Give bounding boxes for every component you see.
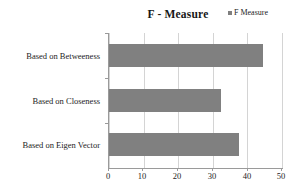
chart-title: F - Measure <box>128 8 228 20</box>
category-label-eigen-vector: Based on Eigen Vector <box>22 141 100 150</box>
bar-based-on-closeness <box>109 89 221 112</box>
bar-based-on-betweeness <box>109 44 263 67</box>
legend-entry-label: F Measure <box>234 9 268 17</box>
category-label-betweeness: Based on Betweeness <box>26 52 100 61</box>
x-ticklabel-10: 10 <box>138 172 147 181</box>
category-label-closeness: Based on Closeness <box>32 97 100 106</box>
x-ticklabel-50: 50 <box>277 172 286 181</box>
x-axis-tick-labels: 0 10 20 30 40 50 <box>0 172 301 188</box>
y-tickmark-2 <box>105 123 108 124</box>
x-axis-line <box>108 168 283 169</box>
y-axis-category-labels: Based on Betweeness Based on Closeness B… <box>0 33 104 168</box>
bar-based-on-eigen-vector <box>109 133 239 156</box>
chart-legend: F Measure <box>228 9 268 17</box>
x-ticklabel-0: 0 <box>106 172 110 181</box>
f-measure-bar-chart: F - Measure F Measure Based on Betweenes… <box>0 0 301 194</box>
plot-area <box>108 33 282 168</box>
x-ticklabel-40: 40 <box>243 172 252 181</box>
y-tickmark-1 <box>105 78 108 79</box>
gridline-50 <box>282 33 283 168</box>
legend-swatch-icon <box>228 11 232 15</box>
bars-layer <box>109 33 282 168</box>
x-ticklabel-20: 20 <box>173 172 182 181</box>
x-ticklabel-30: 30 <box>208 172 217 181</box>
y-tickmark-0 <box>105 33 108 34</box>
